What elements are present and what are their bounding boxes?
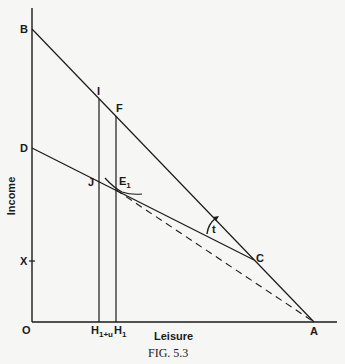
dashed-line-E1A	[116, 190, 314, 322]
label-D: D	[20, 142, 28, 154]
label-H1: H1	[114, 324, 127, 339]
label-E1: E1	[119, 175, 131, 190]
label-F: F	[116, 102, 123, 114]
label-I: I	[97, 85, 100, 97]
label-O: O	[22, 324, 31, 336]
label-A: A	[310, 325, 318, 337]
y-axis-title: Income	[5, 177, 17, 216]
label-B: B	[20, 23, 28, 35]
label-t: t	[212, 223, 216, 235]
label-X: X	[20, 255, 28, 267]
budget-line-BA	[32, 29, 314, 322]
figure-caption: FIG. 5.3	[148, 346, 188, 360]
budget-line-DC	[32, 148, 254, 260]
label-H1u: H1+u	[91, 324, 113, 339]
diagram-canvas: B D X O I F J E1 t C A H1+u H1 Leisure I…	[0, 0, 345, 364]
label-J: J	[88, 176, 94, 188]
x-axis-title: Leisure	[154, 330, 193, 342]
label-C: C	[256, 252, 264, 264]
